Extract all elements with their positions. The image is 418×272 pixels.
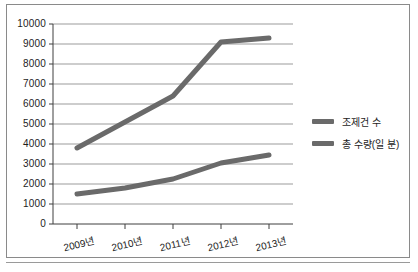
series-line-chong-suryang: [77, 155, 269, 194]
legend-swatch-icon-jojegeon-su: [312, 119, 334, 124]
y-axis-label-7000: 7000: [6, 78, 46, 89]
y-axis-label-10000: 10000: [6, 18, 46, 29]
chart-figure: 10000 9000 8000 7000 6000 5000 4000 3000…: [0, 0, 418, 272]
chart-legend: 조제건 수 총 수량(일 분): [312, 110, 416, 154]
y-axis-label-6000: 6000: [6, 98, 46, 109]
y-axis-label-5000: 5000: [6, 118, 46, 129]
legend-swatch-icon-chong-suryang: [312, 141, 334, 146]
legend-item-chong-suryang: 총 수량(일 분): [312, 132, 416, 154]
y-axis-label-9000: 9000: [6, 38, 46, 49]
y-axis-label-1000: 1000: [6, 198, 46, 209]
y-axis-label-4000: 4000: [6, 138, 46, 149]
y-axis-label-8000: 8000: [6, 58, 46, 69]
y-axis-label-2000: 2000: [6, 178, 46, 189]
legend-label-jojegeon-su: 조제건 수: [342, 114, 381, 129]
legend-label-chong-suryang: 총 수량(일 분): [342, 136, 399, 151]
y-axis-ticks-group: [49, 24, 53, 224]
y-axis-label-3000: 3000: [6, 158, 46, 169]
legend-item-jojegeon-su: 조제건 수: [312, 110, 416, 132]
series-line-jojegeon-su: [77, 38, 269, 148]
y-axis-label-0: 0: [6, 218, 46, 229]
